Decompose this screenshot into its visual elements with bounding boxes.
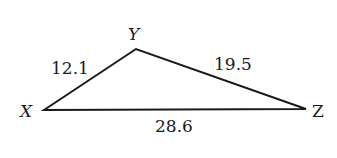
vertex-x-label: X	[18, 101, 33, 121]
side-xz-label: 28.6	[155, 116, 193, 136]
vertex-y-label: Y	[128, 24, 141, 44]
triangle-diagram: X Y Z 12.1 19.5 28.6	[0, 0, 337, 158]
vertex-z-label: Z	[312, 101, 324, 121]
side-yz-label: 19.5	[214, 54, 252, 74]
side-xy-label: 12.1	[51, 58, 89, 78]
